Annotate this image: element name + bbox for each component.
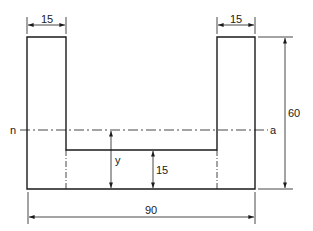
dim-flange-right: 15 xyxy=(230,13,242,25)
dim-width: 90 xyxy=(145,204,157,216)
dim-flange-left: 15 xyxy=(41,13,53,25)
section-outline xyxy=(27,37,255,189)
dim-height: 60 xyxy=(288,107,300,119)
dim-centroid-y: y xyxy=(115,154,121,166)
neutral-axis-label-a: a xyxy=(270,124,277,136)
dim-web-thickness: 15 xyxy=(156,164,168,176)
u-channel-diagram: n a 15 15 60 y 15 90 xyxy=(0,0,313,231)
neutral-axis-label-n: n xyxy=(10,124,16,136)
